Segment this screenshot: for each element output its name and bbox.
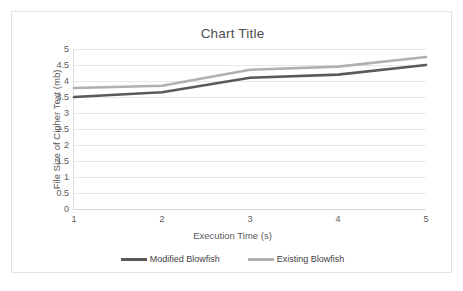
y-axis-tick-label: 0: [17, 204, 69, 214]
plot-area: [74, 49, 426, 209]
chart-title: Chart Title: [12, 26, 453, 41]
y-axis-tick-labels: 54.543.532.521.510.50: [12, 49, 69, 210]
legend-label: Existing Blowfish: [277, 254, 345, 264]
x-axis-tick-labels: 12345: [74, 210, 426, 226]
x-axis-tick-label: 5: [423, 214, 428, 224]
x-axis-tick-label: 4: [335, 214, 340, 224]
chart-container: Chart Title File Size of Cipher Text (mb…: [11, 11, 452, 273]
y-axis-tick-label: 0.5: [17, 188, 69, 198]
x-axis-tick-label: 2: [159, 214, 164, 224]
x-axis-tick-label: 3: [247, 214, 252, 224]
series-lines: [74, 49, 426, 209]
y-axis-tick-label: 4: [17, 76, 69, 86]
y-axis-tick-label: 4.5: [17, 60, 69, 70]
legend-line-icon: [248, 258, 274, 261]
legend-line-icon: [121, 258, 147, 261]
y-axis-tick-label: 1.5: [17, 156, 69, 166]
y-axis-tick-label: 1: [17, 172, 69, 182]
legend-item[interactable]: Existing Blowfish: [248, 254, 345, 264]
legend-label: Modified Blowfish: [150, 254, 220, 264]
series-line: [74, 57, 426, 88]
y-axis-tick-label: 2: [17, 140, 69, 150]
legend-item[interactable]: Modified Blowfish: [121, 254, 220, 264]
y-axis-tick-label: 3: [17, 108, 69, 118]
chart-legend: Modified BlowfishExisting Blowfish: [12, 254, 453, 264]
y-axis-tick-label: 3.5: [17, 92, 69, 102]
x-axis-tick-label: 1: [71, 214, 76, 224]
x-axis-title: Execution Time (s): [12, 230, 453, 241]
y-axis-tick-label: 5: [17, 44, 69, 54]
y-axis-tick-label: 2.5: [17, 124, 69, 134]
